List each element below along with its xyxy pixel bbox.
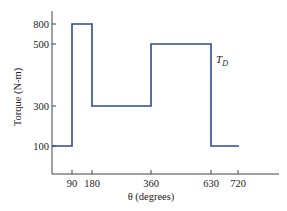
y-tick-800: 800	[33, 19, 49, 30]
y-tick-labels: 800 500 300 100	[33, 19, 49, 152]
y-ticks	[52, 24, 56, 146]
x-axis-label: θ (degrees)	[128, 191, 175, 203]
torque-step-line	[52, 24, 239, 146]
y-tick-100: 100	[33, 141, 49, 152]
x-tick-630: 630	[203, 178, 219, 189]
x-tick-360: 360	[143, 178, 159, 189]
x-ticks	[72, 170, 238, 174]
y-axis-label: Torque (N-m)	[12, 67, 24, 126]
x-tick-90: 90	[67, 178, 78, 189]
y-tick-500: 500	[33, 39, 49, 50]
y-tick-300: 300	[33, 101, 49, 112]
x-tick-720: 720	[230, 178, 246, 189]
torque-chart: 800 500 300 100 90 180 360 630 720 θ (de…	[0, 0, 287, 211]
x-tick-180: 180	[84, 178, 100, 189]
x-tick-labels: 90 180 360 630 720	[67, 178, 246, 189]
series-label-td: TD	[216, 53, 228, 68]
